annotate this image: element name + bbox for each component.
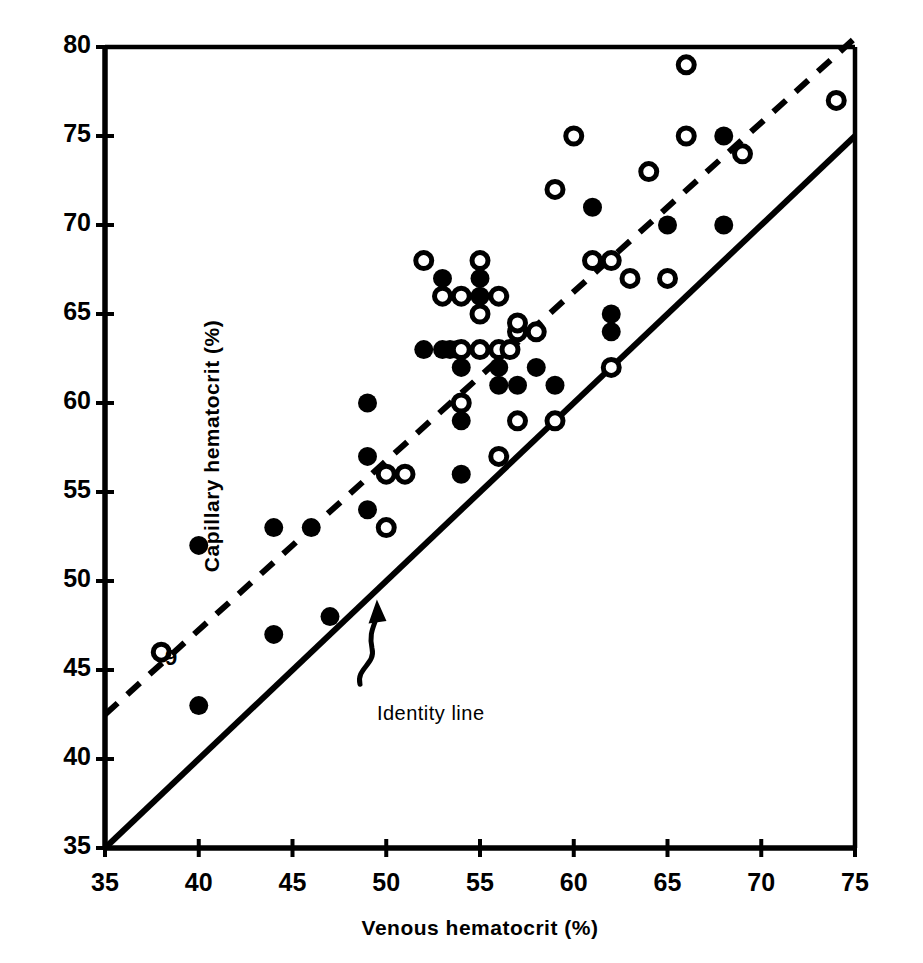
data-point-filled — [358, 394, 377, 413]
data-point-filled — [546, 376, 565, 395]
data-point-open — [547, 413, 563, 429]
y-tick-label: 40 — [41, 742, 91, 771]
regression-slope-label: 9 — [165, 645, 177, 671]
data-point-filled — [264, 625, 283, 644]
data-point-filled — [583, 198, 602, 217]
data-point-filled — [358, 447, 377, 466]
data-point-open — [828, 92, 844, 108]
data-point-filled — [433, 269, 452, 288]
data-point-filled — [714, 216, 733, 235]
data-point-open — [603, 359, 619, 375]
y-tick-label: 60 — [41, 386, 91, 415]
x-tick-label: 60 — [556, 868, 592, 897]
data-point-filled — [489, 358, 508, 377]
x-tick-label: 35 — [87, 868, 123, 897]
y-tick-label: 55 — [41, 475, 91, 504]
data-point-open — [472, 306, 488, 322]
x-tick-label: 75 — [837, 868, 873, 897]
y-tick-label: 70 — [41, 208, 91, 237]
y-tick-label: 45 — [41, 653, 91, 682]
data-point-open — [585, 253, 601, 269]
data-point-filled — [658, 216, 677, 235]
data-point-filled — [302, 518, 321, 537]
data-point-open — [472, 253, 488, 269]
data-point-filled — [414, 340, 433, 359]
data-point-open — [453, 395, 469, 411]
data-point-open — [622, 270, 638, 286]
data-point-filled — [358, 500, 377, 519]
data-point-open — [566, 128, 582, 144]
x-tick-label: 40 — [181, 868, 217, 897]
scatter-plot-figure: 35404550556065707535404550556065707580Ve… — [0, 0, 923, 963]
data-point-open — [491, 288, 507, 304]
y-tick-label: 65 — [41, 297, 91, 326]
y-tick-label: 80 — [41, 30, 91, 59]
data-point-filled — [264, 518, 283, 537]
data-point-open — [453, 342, 469, 358]
identity-line-callout-arrowhead — [370, 602, 385, 622]
data-point-filled — [527, 358, 546, 377]
plot-canvas — [0, 0, 923, 963]
data-point-filled — [602, 322, 621, 341]
data-point-filled — [489, 376, 508, 395]
data-point-open — [453, 288, 469, 304]
data-point-open — [660, 270, 676, 286]
x-tick-label: 45 — [275, 868, 311, 897]
x-axis-title: Venous hematocrit (%) — [105, 916, 855, 940]
identity-line-label: Identity line — [377, 702, 485, 725]
data-point-filled — [471, 269, 490, 288]
data-point-open — [472, 342, 488, 358]
data-point-filled — [471, 287, 490, 306]
y-tick-label: 50 — [41, 564, 91, 593]
data-point-filled — [452, 465, 471, 484]
data-point-filled — [452, 358, 471, 377]
data-point-open — [603, 253, 619, 269]
x-tick-label: 65 — [650, 868, 686, 897]
data-point-open — [435, 288, 451, 304]
data-point-open — [678, 128, 694, 144]
data-point-filled — [452, 411, 471, 430]
x-tick-label: 70 — [743, 868, 779, 897]
data-point-open — [641, 164, 657, 180]
y-tick-label: 35 — [41, 831, 91, 860]
data-point-open — [378, 520, 394, 536]
data-point-open — [547, 181, 563, 197]
y-axis-title: Capillary hematocrit (%) — [200, 266, 224, 626]
y-tick-label: 75 — [41, 119, 91, 148]
data-point-open — [678, 57, 694, 73]
data-point-open — [735, 146, 751, 162]
data-point-filled — [508, 376, 527, 395]
data-point-filled — [321, 607, 340, 626]
x-tick-label: 55 — [462, 868, 498, 897]
x-tick-label: 50 — [368, 868, 404, 897]
data-point-filled — [189, 696, 208, 715]
data-point-open — [528, 324, 544, 340]
data-point-filled — [714, 127, 733, 146]
data-point-open — [491, 448, 507, 464]
data-point-open — [378, 466, 394, 482]
identity-line-callout-curve — [359, 616, 377, 684]
data-point-open — [397, 466, 413, 482]
data-point-open — [510, 315, 526, 331]
data-point-open — [416, 253, 432, 269]
data-point-open — [510, 413, 526, 429]
data-point-open — [502, 342, 518, 358]
data-point-filled — [602, 305, 621, 324]
